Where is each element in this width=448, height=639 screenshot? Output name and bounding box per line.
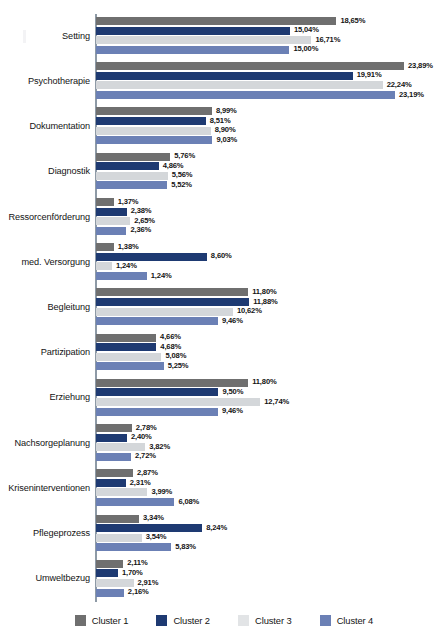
bar-chart: Setting18,65%15,04%16,71%15,00%Psychothe… (0, 0, 448, 639)
bar[interactable] (96, 272, 147, 280)
category-label: Umweltbezug (0, 575, 90, 585)
bar[interactable] (96, 443, 145, 451)
bar[interactable] (96, 288, 248, 296)
bar[interactable] (96, 62, 404, 70)
bar[interactable] (96, 27, 290, 35)
bar-value-label: 5,25% (168, 361, 189, 370)
bar-group: Erziehung11,80%9,50%12,74%9,46% (0, 376, 448, 421)
bar[interactable] (96, 488, 147, 496)
legend-label: Cluster 3 (255, 615, 292, 626)
bar-value-label: 23,19% (399, 90, 424, 99)
bar-value-label: 2,65% (134, 216, 155, 225)
bar-value-label: 15,04% (294, 25, 319, 34)
bar[interactable] (96, 298, 249, 306)
bar[interactable] (96, 379, 248, 387)
bar-value-label: 16,71% (315, 35, 340, 44)
bar[interactable] (96, 253, 207, 261)
bar[interactable] (96, 243, 114, 251)
bar-value-label: 11,88% (253, 297, 277, 306)
bar[interactable] (96, 172, 168, 180)
bar[interactable] (96, 560, 123, 568)
bar[interactable] (96, 524, 202, 532)
bar-value-label: 2,31% (130, 478, 151, 487)
bar[interactable] (96, 543, 171, 551)
bar-value-label: 10,62% (237, 306, 262, 315)
bar[interactable] (96, 136, 212, 144)
legend-item[interactable]: Cluster 3 (238, 615, 292, 626)
bar[interactable] (96, 36, 311, 44)
bar[interactable] (96, 308, 233, 316)
bar[interactable] (96, 569, 118, 577)
legend-label: Cluster 4 (337, 615, 374, 626)
bar[interactable] (96, 498, 174, 506)
bar[interactable] (96, 91, 395, 99)
bar-value-label: 1,37% (118, 197, 139, 206)
bar-value-label: 8,51% (210, 116, 231, 125)
bar[interactable] (96, 589, 124, 597)
bar[interactable] (96, 181, 167, 189)
bar[interactable] (96, 334, 156, 342)
bar[interactable] (96, 317, 218, 325)
bar[interactable] (96, 227, 126, 235)
bar[interactable] (96, 343, 156, 351)
bar[interactable] (96, 388, 218, 396)
bar[interactable] (96, 81, 383, 89)
bar-value-label: 22,24% (387, 80, 412, 89)
bar-value-label: 5,52% (171, 180, 192, 189)
bar-value-label: 9,50% (222, 387, 243, 396)
bar[interactable] (96, 398, 260, 406)
bar[interactable] (96, 208, 127, 216)
bar[interactable] (96, 362, 164, 370)
category-label: Kriseninterventionen (0, 484, 90, 494)
bar[interactable] (96, 479, 126, 487)
bar[interactable] (96, 198, 114, 206)
bar-value-label: 8,60% (211, 251, 232, 260)
bar[interactable] (96, 127, 211, 135)
bar[interactable] (96, 153, 170, 161)
bar-value-label: 2,40% (131, 432, 152, 441)
bars-container: 1,37%2,38%2,65%2,36% (96, 195, 448, 240)
legend-item[interactable]: Cluster 2 (156, 615, 210, 626)
bars-container: 11,80%11,88%10,62%9,46% (96, 285, 448, 330)
bar[interactable] (96, 424, 132, 432)
bar[interactable] (96, 46, 289, 54)
bars-container: 2,78%2,40%3,82%2,72% (96, 421, 448, 466)
bars-container: 18,65%15,04%16,71%15,00% (96, 14, 448, 59)
bar[interactable] (96, 453, 131, 461)
bar-value-label: 3,34% (143, 513, 164, 522)
bar[interactable] (96, 107, 212, 115)
bar[interactable] (96, 434, 127, 442)
legend-label: Cluster 2 (173, 615, 210, 626)
bar[interactable] (96, 262, 112, 270)
bar[interactable] (96, 515, 139, 523)
bar-value-label: 1,38% (118, 242, 139, 251)
bars-container: 2,87%2,31%3,99%6,08% (96, 466, 448, 511)
bar[interactable] (96, 72, 353, 80)
bar[interactable] (96, 217, 130, 225)
bar-value-label: 15,00% (293, 44, 318, 53)
category-label: Diagnostik (0, 167, 90, 177)
bar[interactable] (96, 469, 133, 477)
bar-value-label: 2,91% (138, 578, 159, 587)
bar-value-label: 1,24% (116, 261, 137, 270)
legend-item[interactable]: Cluster 1 (75, 615, 129, 626)
legend-item[interactable]: Cluster 4 (320, 615, 374, 626)
bar[interactable] (96, 353, 161, 361)
bar[interactable] (96, 17, 336, 25)
bar[interactable] (96, 162, 159, 170)
category-label: Pflegeprozess (0, 529, 90, 539)
legend-swatch-icon (156, 615, 167, 626)
bar[interactable] (96, 534, 142, 542)
category-label: Partizipation (0, 348, 90, 358)
bar-value-label: 5,08% (165, 351, 186, 360)
bar[interactable] (96, 579, 134, 587)
bar-group: med. Versorgung1,38%8,60%1,24%1,24% (0, 240, 448, 285)
bar-group: Ressorcenförderung1,37%2,38%2,65%2,36% (0, 195, 448, 240)
bar[interactable] (96, 408, 218, 416)
bars-container: 11,80%9,50%12,74%9,46% (96, 376, 448, 421)
bar-value-label: 2,36% (130, 225, 151, 234)
bar-value-label: 2,78% (136, 423, 157, 432)
bar-group: Begleitung11,80%11,88%10,62%9,46% (0, 285, 448, 330)
bar-value-label: 9,03% (216, 135, 237, 144)
bar[interactable] (96, 117, 206, 125)
